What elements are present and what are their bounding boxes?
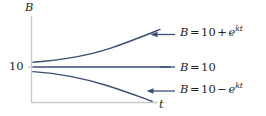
y-tick-label-10: 10	[9, 61, 24, 73]
annotation-arrow-upper	[151, 32, 176, 37]
curve-lower	[33, 72, 152, 102]
annotation-arrow-lower	[147, 88, 176, 93]
equation-middle-equals: =	[188, 60, 201, 74]
equation-label-upper: B=10+ekt	[180, 27, 243, 39]
equation-lower-exponent: kt	[235, 81, 243, 90]
x-axis-label: t	[159, 99, 164, 111]
equation-label-middle: B=10	[180, 62, 216, 74]
equation-upper-equals: =	[188, 25, 201, 39]
equation-middle-constant: 10	[201, 60, 216, 74]
y-axis-label: B	[25, 2, 33, 14]
equation-upper-exponent: kt	[235, 24, 243, 33]
equation-lower-constant: 10	[201, 82, 216, 96]
equation-upper-constant: 10	[201, 25, 216, 39]
plot-canvas	[0, 0, 266, 116]
math-figure: B t 10 B=10+ekt B=10 B=10−ekt	[0, 0, 266, 116]
equation-lower-operator: −	[216, 82, 229, 96]
equation-lower-equals: =	[188, 82, 201, 96]
curve-upper	[33, 29, 160, 62]
equation-upper-operator: +	[216, 25, 229, 39]
equation-label-lower: B=10−ekt	[180, 84, 243, 96]
